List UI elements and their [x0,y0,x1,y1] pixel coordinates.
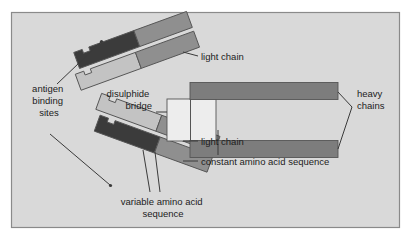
label-light-chain-bottom: light chain [201,136,244,147]
label-light-chain-bottom-line-1: light chain [201,136,244,147]
leader-dot-antigen-lower [109,184,112,187]
label-light-chain-top-line-1: light chain [201,51,244,62]
leader-dot-antigen-upper [100,40,103,43]
antibody-diagram-figure: antigen binding sites disulphide bridge … [0,0,411,241]
antibody-diagram-canvas: antigen binding sites disulphide bridge … [0,0,411,241]
label-antigen-binding-sites-line-2: binding [32,95,63,106]
upper-heavy-chain-bar [190,83,338,100]
label-constant-amino-acid-sequence-line-1: constant amino acid sequence [201,156,329,167]
hinge-disulphide-bridge-region [167,99,216,141]
label-constant-amino-acid-sequence: constant amino acid sequence [201,156,329,167]
label-heavy-chains: heavy chains [357,88,385,111]
label-antigen-binding-sites-line-3: sites [39,107,59,118]
label-variable-amino-acid-sequence-line-1: variable amino acid [121,196,203,207]
label-disulphide-bridge-line-2: bridge [126,100,152,111]
label-disulphide-bridge-line-1: disulphide [107,88,150,99]
label-antigen-binding-sites-line-1: antigen [32,83,63,94]
label-heavy-chains-line-1: heavy [357,88,383,99]
label-heavy-chains-line-2: chains [357,100,385,111]
label-light-chain-top: light chain [201,51,244,62]
label-variable-amino-acid-sequence-line-2: sequence [142,208,183,219]
